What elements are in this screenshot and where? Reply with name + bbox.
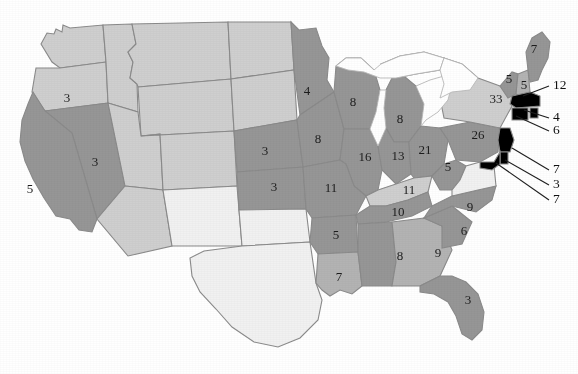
state-OK[interactable] [239, 209, 310, 246]
vote-label-NY: 33 [490, 91, 503, 106]
state-PA[interactable] [440, 122, 500, 162]
vote-label-MN: 4 [304, 83, 311, 98]
state-AL[interactable] [358, 222, 396, 286]
state-DE[interactable] [500, 152, 508, 164]
state-ME[interactable] [526, 32, 550, 82]
vote-label-VT: 5 [506, 71, 513, 86]
vote-label-IN: 13 [392, 148, 405, 163]
callout-label-DE: 3 [553, 176, 560, 191]
callout-label-CT: 6 [553, 122, 560, 137]
vote-label-CA: 5 [27, 181, 34, 196]
vote-label-OR: 3 [64, 90, 71, 105]
vote-label-IL: 16 [359, 149, 373, 164]
state-NJ[interactable] [498, 128, 514, 152]
vote-label-MO: 11 [325, 180, 338, 195]
vote-label-GA: 9 [435, 245, 442, 260]
vote-label-KY: 11 [403, 182, 416, 197]
leader-line-MD [496, 163, 549, 200]
vote-label-NC: 9 [467, 199, 474, 214]
vote-label-AL: 8 [397, 248, 404, 263]
state-TX[interactable] [190, 242, 322, 347]
callout-label-MA: 12 [553, 77, 567, 92]
us-map-figure: 353334888161321511115710896933326557 124… [0, 0, 578, 374]
state-NM[interactable] [163, 186, 242, 246]
vote-label-WV: 5 [445, 159, 452, 174]
callout-vote-labels: 1246737 [553, 77, 567, 206]
state-WY[interactable] [138, 79, 234, 136]
state-ND[interactable] [228, 22, 294, 79]
callout-label-NJ: 7 [553, 161, 560, 176]
vote-label-AR: 5 [333, 227, 340, 242]
vote-label-KS: 3 [271, 179, 278, 194]
vote-label-NE: 3 [262, 143, 269, 158]
vote-label-FL: 3 [465, 292, 472, 307]
vote-label-IA: 8 [315, 131, 322, 146]
state-FL[interactable] [420, 276, 484, 340]
vote-label-ME: 7 [531, 41, 538, 56]
vote-label-MI: 8 [397, 111, 404, 126]
vote-label-NV: 3 [92, 154, 99, 169]
state-MT[interactable] [128, 22, 231, 87]
state-WA[interactable] [41, 25, 106, 68]
callout-label-MD: 7 [553, 191, 560, 206]
leader-line-DE [505, 160, 549, 185]
vote-label-SC: 6 [461, 223, 468, 238]
vote-label-LA: 7 [336, 269, 343, 284]
us-states-map: 353334888161321511115710896933326557 124… [0, 0, 578, 374]
vote-label-NH: 5 [521, 77, 528, 92]
vote-label-OH: 21 [419, 142, 432, 157]
vote-label-TN: 10 [392, 204, 405, 219]
vote-label-WI: 8 [350, 94, 357, 109]
vote-label-PA: 26 [472, 127, 486, 142]
